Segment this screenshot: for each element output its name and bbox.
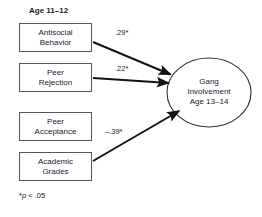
footnote-threshold: < .05 [26, 191, 45, 200]
node-peer-acceptance[interactable]: Peer Acceptance [19, 112, 92, 141]
path-arrow-antisocial-behavior [93, 42, 171, 75]
node-label: Peer Acceptance [35, 117, 77, 137]
node-academic-grades[interactable]: Academic Grades [19, 152, 92, 181]
node-label: Academic Grades [38, 157, 73, 177]
path-coefficient-academic-grades: –.39* [105, 127, 123, 136]
node-peer-rejection[interactable]: Peer Rejection [19, 63, 92, 92]
node-antisocial-behavior[interactable]: Antisocial Behavior [19, 23, 92, 52]
group-title: Age 11–12 [29, 6, 68, 16]
significance-footnote: *p < .05 [19, 191, 45, 200]
node-label: Antisocial Behavior [38, 28, 72, 48]
path-arrow-peer-rejection [93, 78, 169, 83]
node-label: Peer Rejection [39, 68, 72, 88]
path-coefficient-antisocial-behavior: .29* [115, 28, 128, 37]
path-diagram: Age 11–12 Antisocial Behavior Peer Rejec… [0, 0, 262, 217]
outcome-label: Gang Involvement Age 13–14 [167, 77, 251, 107]
path-coefficient-peer-rejection: .22* [115, 64, 128, 73]
path-arrow-academic-grades [93, 111, 179, 161]
